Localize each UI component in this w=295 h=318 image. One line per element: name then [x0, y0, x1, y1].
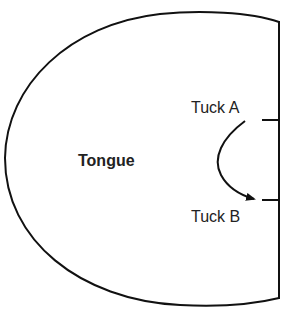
tuck-b-label: Tuck B	[191, 208, 240, 225]
tongue-label: Tongue	[78, 152, 135, 169]
tongue-diagram: Tongue Tuck A Tuck B	[0, 0, 295, 318]
tuck-a-label: Tuck A	[191, 99, 240, 116]
tongue-outline	[5, 12, 279, 306]
fold-arrow	[218, 121, 254, 199]
